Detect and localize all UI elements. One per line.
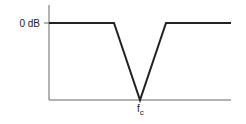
- notch-filter-diagram: 0 dB fc: [0, 0, 246, 124]
- response-curve: [49, 23, 231, 100]
- y-label-0db: 0 dB: [19, 18, 40, 29]
- x-label-fc: fc: [137, 103, 144, 117]
